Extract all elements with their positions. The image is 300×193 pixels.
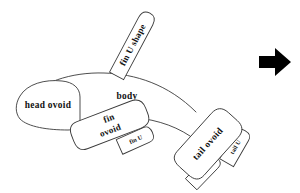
formline-decomposition-diagram: head ovoid body fin U shape fin U fin ov… xyxy=(0,0,300,193)
right-arrow-icon xyxy=(259,48,291,76)
head-ovoid-shape[interactable]: head ovoid xyxy=(16,81,80,130)
diagram-canvas: head ovoid body fin U shape fin U fin ov… xyxy=(0,0,300,193)
fin-u-shape[interactable]: fin U shape xyxy=(110,9,157,79)
body-label: body xyxy=(116,91,137,101)
head-ovoid-label: head ovoid xyxy=(25,100,72,110)
